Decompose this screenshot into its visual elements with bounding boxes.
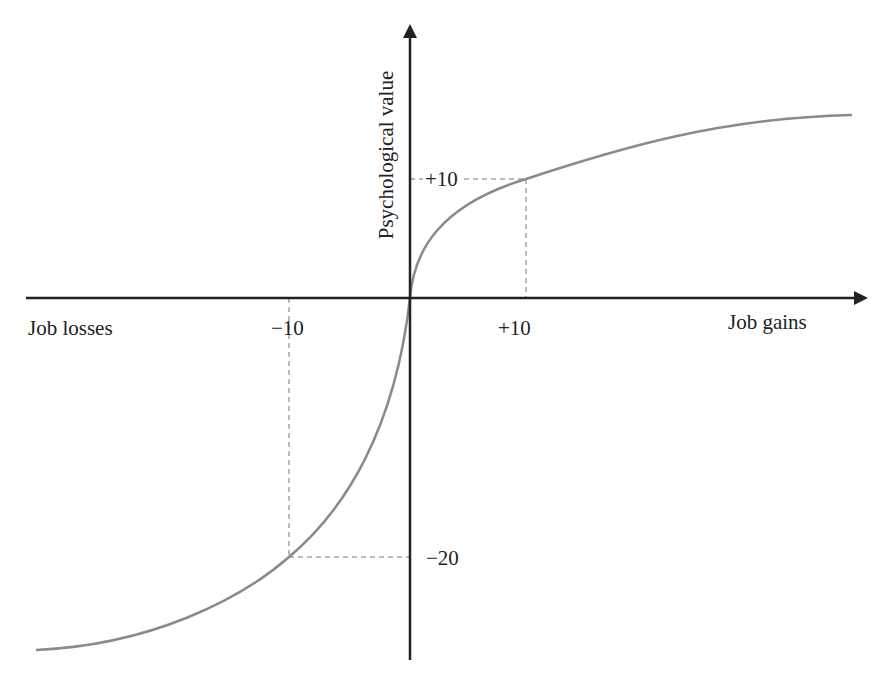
x-axis-label-left: Job losses xyxy=(28,318,113,339)
x-tick-plus10: +10 xyxy=(498,318,531,339)
y-tick-minus20: −20 xyxy=(426,548,459,569)
value-function-chart xyxy=(0,0,892,686)
x-axis-arrow-icon xyxy=(854,291,868,305)
y-axis-label: Psychological value xyxy=(374,71,399,240)
reference-guides xyxy=(289,179,526,557)
y-tick-plus10: +10 xyxy=(423,169,460,190)
y-axis-arrow-icon xyxy=(403,24,417,38)
x-axis-label-right: Job gains xyxy=(728,312,807,333)
x-tick-minus10: −10 xyxy=(271,318,304,339)
